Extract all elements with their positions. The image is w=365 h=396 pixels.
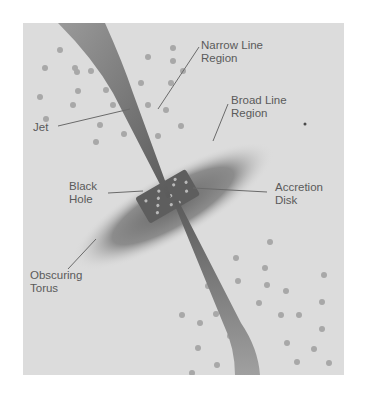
label-jet: Jet (33, 121, 48, 134)
diagram-panel: Narrow Line Region Broad Line Region Jet… (23, 23, 344, 375)
label-broad-line-region: Broad Line Region (231, 94, 287, 120)
label-black-hole: Black Hole (69, 180, 97, 206)
label-accretion-disk: Accretion Disk (275, 181, 323, 207)
label-narrow-line-region: Narrow Line Region (201, 39, 263, 65)
jet-lower (173, 200, 260, 375)
jet-upper (58, 23, 171, 198)
label-obscuring-torus: Obscuring Torus (30, 269, 82, 295)
